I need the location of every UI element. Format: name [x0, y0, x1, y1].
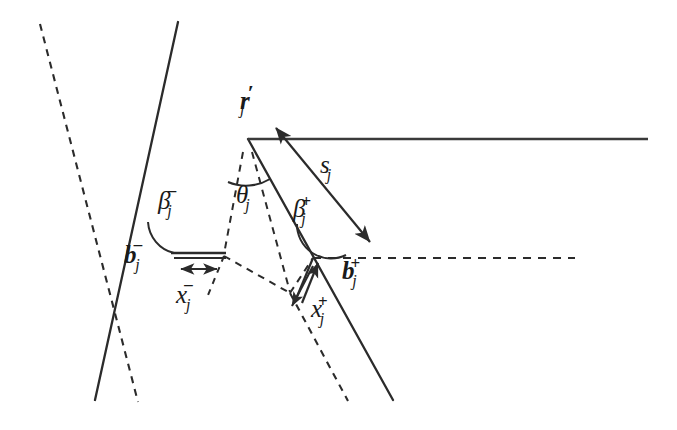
b-plus-sup: +	[351, 254, 361, 273]
r-prime-mark: ′	[248, 80, 254, 105]
figure-container: r′ j sj θj β−j β+j b−j b+j x−j x+j	[0, 0, 677, 430]
right-solid-ray	[248, 139, 393, 400]
theta-j-sub: j	[245, 196, 249, 213]
x-plus-sub: j	[320, 310, 324, 327]
s-j-sub: j	[327, 166, 331, 183]
label-s-j: sj	[320, 152, 334, 177]
left-inner-dashed-tail	[206, 256, 224, 300]
left-dashed-ray	[40, 24, 138, 402]
beta-minus-angle-arc	[148, 222, 174, 253]
label-x-plus-j: x+j	[311, 296, 336, 321]
label-beta-minus-j: β−j	[158, 188, 186, 213]
b-plus-sub: j	[352, 272, 356, 289]
x-plus-sup: +	[318, 292, 328, 311]
label-x-minus-j: x−j	[176, 282, 202, 307]
label-theta-j: θj	[236, 182, 253, 207]
beta-plus-sub: j	[301, 210, 305, 227]
label-r-prime-j: r′ j	[240, 88, 256, 113]
b-minus-sup: −	[133, 235, 144, 256]
beta-minus-sup: −	[166, 181, 177, 202]
s-double-arrow	[276, 128, 370, 242]
label-b-minus-j: b−j	[124, 242, 152, 267]
inner-dashed-right-leg	[252, 152, 290, 292]
diagram-canvas	[0, 0, 677, 430]
beta-plus-sup: +	[301, 192, 311, 211]
b-minus-sub: j	[135, 256, 139, 273]
x-minus-sub: j	[186, 296, 190, 313]
r-prime-j-sub: j	[240, 101, 244, 117]
inner-dashed-lower-left-edge	[224, 256, 290, 293]
label-b-plus-j: b+j	[342, 258, 369, 283]
label-beta-plus-j: β+j	[293, 196, 320, 221]
x-minus-sup: −	[183, 275, 194, 296]
beta-minus-sub: j	[167, 202, 171, 219]
